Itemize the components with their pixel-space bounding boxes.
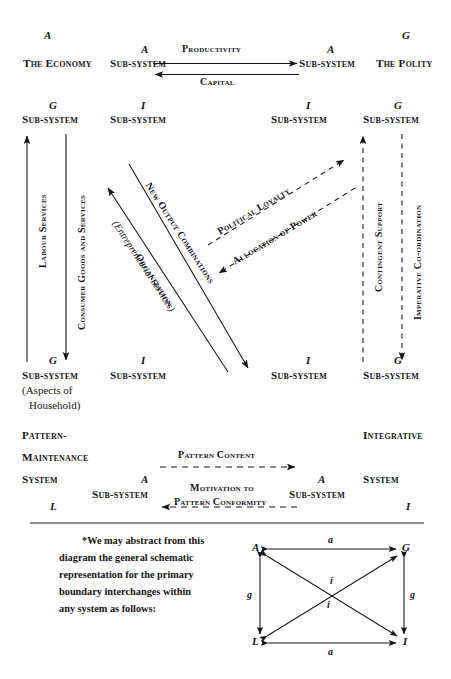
row2-inner-left-label: Sub-system [110, 114, 166, 125]
flow-labour-services-label: Labour Services [38, 194, 48, 268]
row3-inner-right-letter: I [306, 355, 310, 366]
row1-outer-right-letter: G [402, 30, 410, 41]
row4-inner-right-letter: A [318, 474, 325, 485]
row4-outer-right-letter: I [406, 501, 410, 512]
agil-bottom-left: L [252, 636, 259, 647]
row4-outer-left-letter: L [50, 501, 57, 512]
flow-consumer-goods-label: Consumer Goods and Services [77, 195, 87, 330]
footnote-line5: any system as follows: [59, 602, 156, 616]
row2-outer-right-letter: G [394, 100, 402, 111]
row3-outer-left-letter: G [49, 355, 57, 366]
row4-inner-left-label: Sub-system [92, 489, 148, 500]
row1-inner-right-label: Sub-system [299, 58, 355, 69]
footnote-line4: boundary interchanges within [59, 585, 191, 599]
row4-outer-left-line1: Pattern- [22, 430, 67, 441]
agil-top-edge-label: a [328, 535, 333, 545]
flow-pattern-content-label: Pattern Content [178, 450, 255, 460]
footnote-line3: representation for the primary [59, 568, 194, 582]
flow-capital-label: Capital [200, 77, 235, 87]
row2-inner-right-label: Sub-system [271, 114, 327, 125]
row4-outer-left-line2: Maintenance [22, 452, 89, 463]
flow-motivation-line2: Pattern Conformity [174, 497, 266, 507]
agil-left-edge-label: g [247, 590, 252, 600]
row2-inner-right-letter: I [306, 100, 310, 111]
row3-inner-left-label: Sub-system [110, 370, 166, 381]
diagram-canvas: A The Economy A Sub-system Productivity … [0, 0, 451, 679]
flow-motivation-line1: Motivation to [190, 483, 254, 493]
row1-outer-left-label: The Economy [23, 58, 92, 69]
row1-outer-left-letter: A [44, 30, 51, 41]
agil-diagonal-upper-label: i [330, 576, 333, 586]
row1-inner-right-letter: A [327, 44, 334, 55]
row3-outer-left-sub-line1: (Aspects of [22, 385, 72, 396]
row1-inner-left-label: Sub-system [110, 58, 166, 69]
footnote-line1: *We may abstract from this [82, 534, 204, 548]
row3-outer-right-letter: G [394, 355, 402, 366]
flow-productivity-label: Productivity [182, 44, 241, 54]
row2-inner-left-letter: I [141, 100, 145, 111]
agil-bottom-right: I [403, 636, 407, 647]
row2-outer-left-label: Sub-system [22, 114, 78, 125]
footnote-line2: diagram the general schematic [59, 551, 194, 565]
row3-outer-right-label: Sub-system [363, 370, 419, 381]
agil-right-edge-label: g [410, 590, 415, 600]
agil-top-left: A [252, 542, 259, 553]
flow-contingent-support-label: Contingent Support [374, 202, 384, 292]
flow-imperative-coordination-label: Imperative Co-ordination [413, 205, 423, 320]
agil-bottom-edge-label: a [328, 647, 333, 657]
row4-outer-left-line3: System [22, 474, 58, 485]
agil-box-lines [260, 549, 404, 643]
row1-inner-left-letter: A [141, 44, 148, 55]
row1-outer-right-label: The Polity [376, 58, 432, 69]
row3-inner-left-letter: I [141, 355, 145, 366]
row3-outer-left-label: Sub-system [22, 370, 78, 381]
row4-outer-right-line1: Integrative [363, 430, 423, 441]
agil-diagonal-lower-label: i [327, 600, 330, 610]
row4-outer-right-line3: System [363, 474, 399, 485]
row4-inner-right-label: Sub-system [289, 489, 345, 500]
row2-outer-left-letter: G [49, 100, 57, 111]
row4-inner-left-letter: A [141, 474, 148, 485]
agil-top-right: G [402, 542, 410, 553]
row3-inner-right-label: Sub-system [271, 370, 327, 381]
row3-outer-left-sub-line2: Household) [29, 400, 80, 411]
row2-outer-right-label: Sub-system [363, 114, 419, 125]
